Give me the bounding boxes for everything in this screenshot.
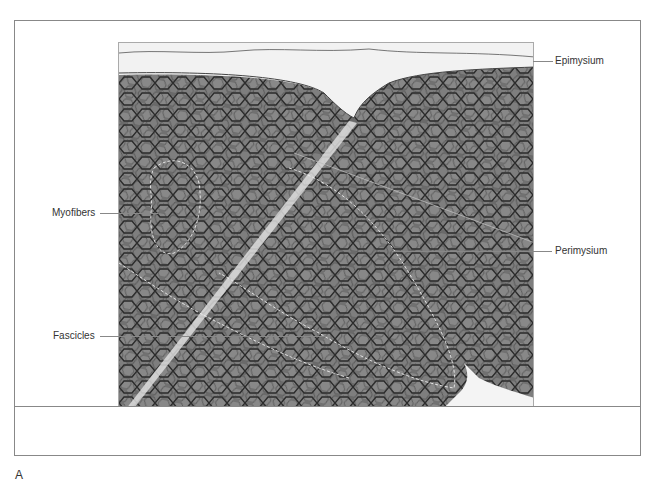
figure-panel-b bbox=[14, 406, 641, 436]
muscle-micrograph bbox=[118, 42, 534, 430]
label-myofibers: Myofibers bbox=[52, 207, 95, 218]
label-epimysium: Epimysium bbox=[555, 55, 604, 66]
leader-perimysium bbox=[392, 251, 552, 252]
leader-epimysium bbox=[533, 61, 553, 62]
label-perimysium: Perimysium bbox=[555, 245, 607, 256]
micrograph-image bbox=[119, 43, 534, 430]
leader-fascicles bbox=[100, 336, 330, 337]
label-fascicles: Fascicles bbox=[53, 330, 95, 341]
panel-letter: A bbox=[15, 468, 23, 482]
leader-myofibers bbox=[100, 213, 158, 214]
